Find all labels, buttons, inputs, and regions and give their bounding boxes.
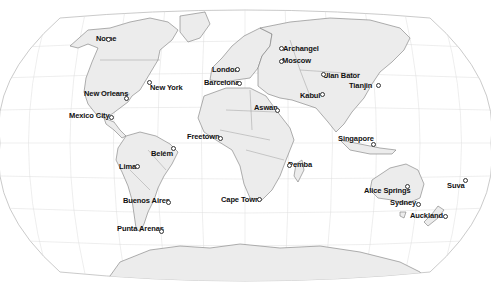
city-label: New York [150, 84, 183, 92]
city-label: Auckland [410, 212, 443, 220]
city-marker-icon [237, 81, 242, 86]
city-label: Barcelona [204, 79, 239, 87]
city-label: Tianjin [349, 82, 372, 90]
city-marker-icon [124, 96, 129, 101]
city-marker-icon [320, 92, 325, 97]
city-label: Ulan Bator [323, 72, 360, 80]
city-marker-icon [218, 136, 223, 141]
city-label: Belém [151, 150, 173, 158]
city-marker-icon [321, 72, 326, 77]
city-label: Alice Springs [364, 187, 411, 195]
city-label: Moscow [282, 57, 311, 65]
city-marker-icon [405, 184, 410, 189]
city-marker-icon [275, 108, 280, 113]
city-marker-icon [371, 142, 376, 147]
city-marker-icon [147, 80, 152, 85]
city-marker-icon [443, 214, 448, 219]
city-marker-icon [463, 178, 468, 183]
city-marker-icon [257, 197, 262, 202]
city-marker-icon [166, 200, 171, 205]
city-marker-icon [109, 115, 114, 120]
city-label: Sydney [390, 199, 416, 207]
city-label: Lima [119, 163, 136, 171]
city-label: Buenos Aires [123, 197, 170, 205]
world-map [0, 0, 491, 287]
city-marker-icon [279, 46, 284, 51]
city-label: Kabul [300, 92, 320, 100]
city-label: Singapore [338, 135, 374, 143]
city-marker-icon [235, 67, 240, 72]
city-label: Freetown [187, 133, 220, 141]
city-marker-icon [106, 37, 111, 42]
city-marker-icon [279, 59, 284, 64]
city-marker-icon [171, 146, 176, 151]
city-label: Archangel [283, 45, 319, 53]
city-marker-icon [376, 83, 381, 88]
city-label: Mexico City [69, 112, 110, 120]
city-marker-icon [135, 164, 140, 169]
city-label: Punta Arenas [117, 225, 164, 233]
city-label: New Orleans [84, 90, 128, 98]
city-marker-icon [287, 163, 292, 168]
city-marker-icon [416, 202, 421, 207]
city-label: Suva [447, 182, 465, 190]
city-marker-icon [159, 229, 164, 234]
city-label: Cape Town [221, 196, 260, 204]
